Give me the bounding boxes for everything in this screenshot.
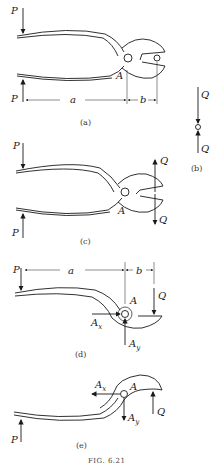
- force-label-q-bottom-b: Q: [201, 144, 209, 154]
- panel-b-free-body: [196, 87, 201, 153]
- pivot-label-d: A: [130, 296, 137, 306]
- panel-label-a: (a): [80, 118, 91, 127]
- pivot-label-a: A: [116, 71, 123, 81]
- force-label-q-top-b: Q: [201, 90, 209, 100]
- force-label-q-top-c: Q: [160, 156, 168, 166]
- dimension-label-b: b: [140, 95, 146, 105]
- force-label-q-e: Q: [157, 407, 165, 417]
- force-label-p-top-a: P: [11, 6, 18, 16]
- panel-c-pliers: [16, 143, 163, 238]
- force-label-ay-e: Ay: [128, 413, 139, 427]
- force-label-p-e: P: [11, 435, 18, 445]
- panel-label-c: (c): [80, 237, 91, 246]
- pivot-label-e: A: [130, 382, 137, 392]
- force-label-p-top-c: P: [13, 141, 20, 151]
- force-label-p-bottom-c: P: [12, 228, 19, 238]
- force-label-ax-e: Ax: [95, 380, 106, 394]
- panel-e-upper-jaw: [14, 375, 162, 442]
- dimension-label-a: a: [70, 95, 76, 105]
- pivot-label-c: A: [118, 206, 125, 216]
- force-label-q-d: Q: [158, 291, 166, 301]
- panel-label-e: (e): [76, 441, 87, 450]
- force-label-p-bottom-a: P: [11, 94, 18, 104]
- force-label-ay-d: Ay: [129, 339, 140, 353]
- force-label-p-d: P: [13, 265, 20, 275]
- panel-label-d: (d): [75, 350, 86, 359]
- dimension-label-b-d: b: [136, 266, 142, 276]
- pliers-diagram: [0, 0, 216, 475]
- force-label-ax-d: Ax: [91, 318, 102, 332]
- figure-caption: FIG. 6.21: [88, 457, 126, 465]
- force-label-q-bottom-c: Q: [159, 215, 167, 225]
- panel-label-b: (b): [191, 164, 202, 173]
- panel-a-pliers: [17, 8, 165, 104]
- dimension-label-a-d: a: [68, 266, 74, 276]
